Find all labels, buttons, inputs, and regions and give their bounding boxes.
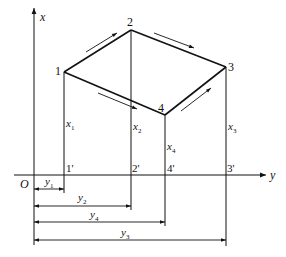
foot-3-label: 3' [227,162,235,174]
point-4-label: 4 [158,101,164,115]
dim-label-y3: y3 [120,226,130,241]
svg-text:x4: x4 [166,140,176,155]
point-3-label: 3 [228,60,234,74]
dim-label-y4: y4 [89,208,99,223]
dim-label-y1: y1 [44,175,54,190]
point-2-label: 2 [127,15,133,29]
diagram-canvas: x y O [0,0,286,257]
height-label-4: x4 [166,140,176,155]
point-1-label: 1 [55,64,61,78]
flow-arrows [86,33,211,111]
dimension-lines [34,189,226,240]
svg-text:y3: y3 [120,226,130,241]
edge-1-2 [64,30,131,72]
edge-3-4 [165,67,226,115]
height-lines [64,30,226,246]
x-axis-label: x [39,10,46,24]
svg-text:x2: x2 [132,120,142,135]
y-axis-label: y [269,168,276,182]
svg-text:x3: x3 [227,120,237,135]
svg-text:x1: x1 [65,117,75,132]
edge-2-3 [131,30,226,67]
foot-2-label: 2' [132,162,140,174]
svg-text:y2: y2 [77,191,87,206]
height-label-3: x3 [227,120,237,135]
foot-1-label: 1' [66,162,74,174]
diagram-svg: x y O [0,0,286,257]
edge-4-1 [64,72,165,115]
dim-label-y2: y2 [77,191,87,206]
origin-label: O [20,177,29,191]
quadrilateral [64,30,226,115]
height-label-2: x2 [132,120,142,135]
foot-4-label: 4' [167,162,175,174]
svg-text:y4: y4 [89,208,99,223]
height-label-1: x1 [65,117,75,132]
svg-text:y1: y1 [44,175,54,190]
